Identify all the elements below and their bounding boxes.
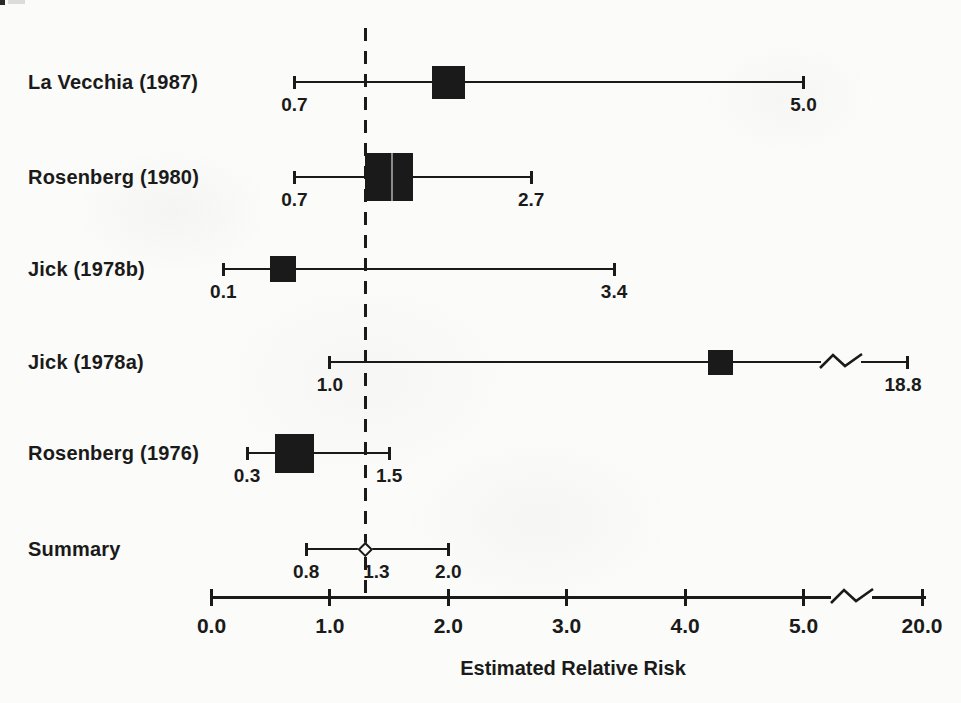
- ci-upper-tick: [802, 76, 805, 89]
- ci-lower-tick: [246, 447, 249, 460]
- study-label: Rosenberg (1976): [28, 443, 199, 463]
- summary-estimate-label: 1.3: [336, 562, 416, 581]
- ci-upper-label: 3.4: [574, 282, 654, 301]
- estimate-box-marker: [365, 153, 413, 201]
- x-axis-line: [872, 596, 926, 599]
- study-label: Summary: [28, 539, 121, 559]
- x-axis-tick-label: 4.0: [640, 615, 730, 636]
- estimate-box-marker: [275, 434, 314, 473]
- estimate-box-marker: [432, 66, 465, 99]
- ci-lower-label: 1.0: [290, 375, 370, 394]
- x-axis-tick-label: 2.0: [403, 615, 493, 636]
- ci-lower-tick: [222, 263, 225, 276]
- x-axis-tick-label: 20.0: [877, 615, 961, 636]
- ci-line: [247, 452, 389, 455]
- x-axis-title: Estimated Relative Risk: [413, 658, 733, 678]
- x-axis-tick: [447, 589, 450, 606]
- ci-lower-label: 0.1: [183, 282, 263, 301]
- x-axis-tick-label: 3.0: [522, 615, 612, 636]
- ci-upper-label: 5.0: [764, 95, 844, 114]
- x-axis-tick: [802, 589, 805, 606]
- study-label: Rosenberg (1980): [28, 167, 199, 187]
- ci-lower-label: 0.7: [254, 190, 334, 209]
- plot-area: La Vecchia (1987)0.75.0Rosenberg (1980)0…: [0, 0, 961, 703]
- ci-lower-tick: [293, 171, 296, 184]
- x-axis-tick: [210, 589, 213, 606]
- ci-upper-tick: [613, 263, 616, 276]
- x-axis-tick: [328, 589, 331, 606]
- ci-lower-tick: [293, 76, 296, 89]
- x-axis-tick: [565, 589, 568, 606]
- ci-upper-tick: [906, 356, 909, 369]
- reference-dashed-line: [364, 28, 367, 599]
- ci-lower-label: 0.8: [266, 562, 346, 581]
- x-axis-tick-label: 1.0: [285, 615, 375, 636]
- ci-upper-label: 18.8: [863, 375, 943, 394]
- ci-upper-label: 2.0: [408, 562, 488, 581]
- study-label: La Vecchia (1987): [28, 72, 198, 92]
- ci-upper-tick: [530, 171, 533, 184]
- ci-line: [330, 361, 821, 364]
- ci-line: [294, 81, 803, 84]
- ci-line-break-zigzag-icon: [818, 352, 864, 372]
- x-axis-line: [212, 596, 832, 599]
- forest-plot: La Vecchia (1987)0.75.0Rosenberg (1980)0…: [0, 0, 961, 703]
- axis-break-zigzag-icon: [829, 587, 875, 607]
- ci-upper-tick: [388, 447, 391, 460]
- estimate-box-marker: [708, 350, 733, 375]
- ci-lower-label: 0.7: [254, 95, 334, 114]
- x-axis-tick: [921, 589, 924, 606]
- ci-upper-label: 1.5: [349, 466, 429, 485]
- ci-upper-label: 2.7: [491, 190, 571, 209]
- scan-line-artifact: [391, 153, 393, 201]
- estimate-box-marker: [270, 256, 296, 282]
- ci-line: [306, 548, 448, 551]
- study-label: Jick (1978a): [28, 352, 144, 372]
- x-axis-tick-label: 5.0: [759, 615, 849, 636]
- ci-lower-tick: [328, 356, 331, 369]
- x-axis-tick-label: 0.0: [167, 615, 257, 636]
- ci-upper-tick: [447, 543, 450, 556]
- study-label: Jick (1978b): [28, 259, 145, 279]
- ci-lower-tick: [305, 543, 308, 556]
- x-axis-tick: [684, 589, 687, 606]
- ci-line: [861, 361, 907, 364]
- summary-diamond-marker: [358, 541, 373, 556]
